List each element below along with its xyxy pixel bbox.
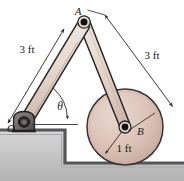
link-oa-body xyxy=(19,20,90,127)
pin-b-dot xyxy=(122,124,129,131)
pin-a-dot xyxy=(81,19,88,26)
label-dimension-left: 3 ft xyxy=(20,43,35,55)
label-dimension-right: 3 ft xyxy=(145,49,160,61)
mechanism-diagram-canvas: A O B θ 3 ft 3 ft 1 ft xyxy=(0,0,184,181)
dimension-right-extension xyxy=(88,10,106,15)
pin-joint-b xyxy=(119,121,131,133)
label-angle-theta: θ xyxy=(57,100,63,112)
link-oa-centerline xyxy=(34,42,79,117)
link-oa xyxy=(19,20,90,127)
label-point-b: B xyxy=(137,125,144,137)
label-point-a: A xyxy=(74,5,82,17)
label-point-o: O xyxy=(7,122,15,134)
pin-joint-a xyxy=(78,16,90,28)
support-pin xyxy=(21,119,27,124)
mechanism-figure: A O B θ 3 ft 3 ft 1 ft xyxy=(0,0,184,181)
label-dimension-radius: 1 ft xyxy=(117,142,132,154)
pin-support-o xyxy=(12,112,36,132)
